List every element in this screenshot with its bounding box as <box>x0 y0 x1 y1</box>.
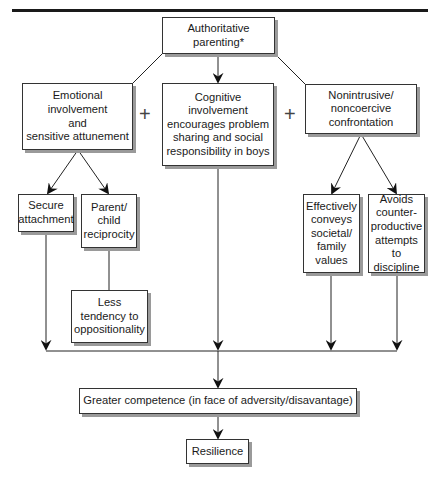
node-conveys-values: Effectively conveys societal/ family val… <box>303 194 360 273</box>
node-nonintrusive-confrontation: Nonintrusive/ noncoercive confrontation <box>305 84 417 134</box>
node-less-oppositionality: Less tendency to oppositionality <box>71 290 148 343</box>
node-avoids-discipline: Avoids counter- productive attempts to d… <box>368 194 425 273</box>
edge-emotional-secure <box>48 150 78 193</box>
node-label: Secure attachment <box>18 199 73 226</box>
node-resilience: Resilience <box>186 439 249 464</box>
node-cognitive-involvement: Cognitive involvement encourages problem… <box>162 83 274 166</box>
node-label: Cognitive involvement encourages problem… <box>166 91 269 159</box>
node-label: Parent/ child reciprocity <box>84 201 135 242</box>
node-label: Greater competence (in face of adversity… <box>83 394 352 408</box>
node-emotional-involvement: Emotional involvement and sensitive attu… <box>22 83 133 150</box>
node-label: Avoids counter- productive attempts to d… <box>370 193 423 275</box>
node-label: Resilience <box>192 445 244 459</box>
edge-nonintrusive-avoids <box>361 134 396 193</box>
node-greater-competence: Greater competence (in face of adversity… <box>79 388 357 414</box>
node-parent-child-reciprocity: Parent/ child reciprocity <box>81 194 137 248</box>
node-secure-attachment: Secure attachment <box>18 194 74 232</box>
node-label: Less tendency to oppositionality <box>74 296 145 337</box>
node-label: Effectively conveys societal/ family val… <box>306 200 357 268</box>
node-authoritative-parenting: Authoritative parenting* <box>162 17 275 54</box>
node-label: Emotional involvement and sensitive attu… <box>26 89 129 143</box>
plus-operator-right: + <box>284 104 296 124</box>
plus-operator-left: + <box>139 104 151 124</box>
edge-emotional-reciprocity <box>78 150 108 193</box>
edge-nonintrusive-conveys <box>332 134 361 193</box>
node-label: Authoritative parenting* <box>187 22 249 49</box>
node-label: Nonintrusive/ noncoercive confrontation <box>328 89 393 130</box>
edge-root-emotional <box>133 54 162 83</box>
edge-root-nonintrusive <box>275 54 305 84</box>
